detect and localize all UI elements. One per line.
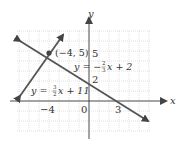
x-axis-label: x	[170, 95, 176, 106]
svg-text:x + 2: x + 2	[107, 61, 132, 72]
coordinate-plane: y x −4 0 3 5 2 (−4, 5) y = − 2 3 x + 2 y…	[0, 0, 183, 149]
svg-text:x + 11: x + 11	[58, 85, 89, 96]
svg-text:y =: y =	[30, 85, 47, 96]
svg-text:2: 2	[53, 91, 57, 97]
tick-label-2: 2	[92, 74, 98, 85]
svg-text:2: 2	[102, 60, 106, 66]
svg-text:3: 3	[53, 84, 57, 90]
tick-label-5: 5	[92, 48, 98, 59]
svg-text:y = −: y = −	[73, 61, 101, 72]
intersection-point	[46, 50, 51, 55]
point-label: (−4, 5)	[55, 47, 89, 58]
svg-text:3: 3	[102, 67, 106, 73]
graph-figure: y x −4 0 3 5 2 (−4, 5) y = − 2 3 x + 2 y…	[0, 0, 183, 149]
equation-2-label: y = 3 2 x + 11	[30, 84, 89, 97]
tick-label-3: 3	[115, 104, 121, 115]
y-axis-label: y	[87, 8, 94, 19]
tick-label-neg4: −4	[40, 104, 55, 115]
tick-label-0: 0	[81, 104, 87, 115]
equation-1-label: y = − 2 3 x + 2	[73, 60, 132, 73]
